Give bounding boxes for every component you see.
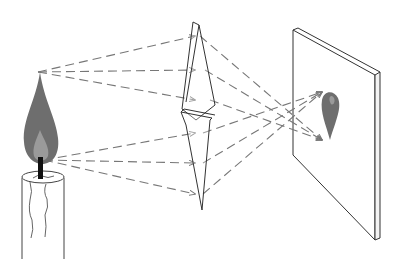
diagram-canvas	[0, 0, 399, 259]
lens	[181, 22, 215, 210]
candle	[22, 171, 64, 259]
wick	[38, 157, 43, 179]
lens-diagram	[0, 0, 399, 259]
candle-flame	[24, 72, 59, 179]
rays-from-flame-tip	[38, 36, 322, 140]
